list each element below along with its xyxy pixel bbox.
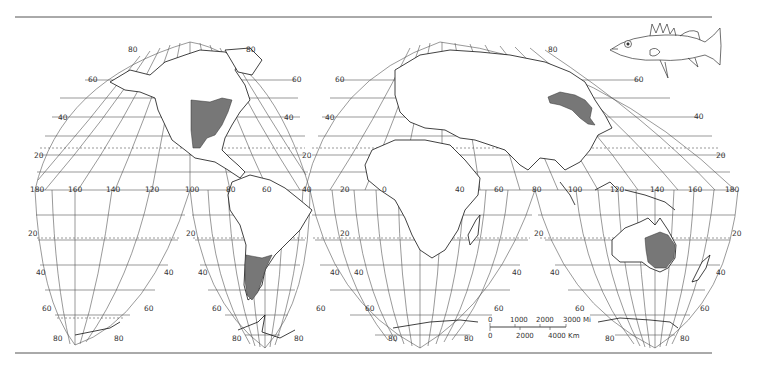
lat-label: 20 xyxy=(28,229,38,238)
scale-km-2000: 2000 xyxy=(516,332,534,340)
lat-label: 40 xyxy=(284,113,294,122)
lat-label: 40 xyxy=(58,113,68,122)
lat-label: 60 xyxy=(494,304,504,313)
lon-label: 180 xyxy=(30,185,45,194)
scale-bar: 0 1000 2000 3000 Mi 0 2000 4000 Km xyxy=(488,316,591,340)
lat-label: 20 xyxy=(186,229,196,238)
range-south-america xyxy=(245,255,272,300)
lon-label: 100 xyxy=(568,185,583,194)
lat-label: 40 xyxy=(198,268,208,277)
scale-km-4000: 4000 Km xyxy=(548,332,580,340)
lat-label: 80 xyxy=(246,45,256,54)
scale-mi-2000: 2000 xyxy=(536,316,554,324)
lon-label: 40 xyxy=(455,185,465,194)
lat-label: 80 xyxy=(464,334,474,343)
lat-label: 40 xyxy=(354,268,364,277)
lat-label: 20 xyxy=(340,229,350,238)
lon-label: 80 xyxy=(226,185,236,194)
lobe-australia xyxy=(535,190,738,348)
lat-label: 40 xyxy=(550,268,560,277)
longitude-labels: 180 160 140 120 100 80 60 40 20 0 40 60 … xyxy=(30,185,740,194)
lat-label: 60 xyxy=(575,304,585,313)
lon-label: 140 xyxy=(650,185,665,194)
lat-label: 60 xyxy=(634,75,644,84)
lat-label: 80 xyxy=(53,334,63,343)
world-map: 80 80 60 60 40 40 20 20 60 40 80 60 40 2… xyxy=(0,0,759,371)
lon-label: 180 xyxy=(725,185,740,194)
lat-label: 60 xyxy=(365,304,375,313)
lat-label: 60 xyxy=(335,75,345,84)
lat-label: 40 xyxy=(694,112,704,121)
lon-label: 60 xyxy=(494,185,504,194)
lat-label: 60 xyxy=(292,75,302,84)
lat-label: 20 xyxy=(302,151,312,160)
lat-label: 60 xyxy=(316,304,326,313)
lat-label: 40 xyxy=(716,268,726,277)
new-zealand xyxy=(692,255,710,282)
lat-label: 80 xyxy=(548,45,558,54)
lat-label: 40 xyxy=(36,268,46,277)
lon-label: 140 xyxy=(106,185,121,194)
lat-label: 20 xyxy=(534,229,544,238)
scale-mi-1000: 1000 xyxy=(510,316,528,324)
lat-label: 80 xyxy=(294,334,304,343)
madagascar xyxy=(468,215,480,245)
scale-mi-0: 0 xyxy=(488,316,492,324)
lat-label: 60 xyxy=(144,304,154,313)
lon-label: 20 xyxy=(340,185,350,194)
scale-mi-3000: 3000 Mi xyxy=(563,316,591,324)
lat-label: 80 xyxy=(388,334,398,343)
lat-label: 80 xyxy=(232,334,242,343)
lat-label: 20 xyxy=(34,151,44,160)
lat-label: 80 xyxy=(128,45,138,54)
lat-label: 20 xyxy=(716,151,726,160)
lon-label: 40 xyxy=(302,185,312,194)
lat-label: 20 xyxy=(732,229,742,238)
lat-label: 40 xyxy=(325,113,335,122)
lat-label: 60 xyxy=(212,304,222,313)
antarctica-australia xyxy=(598,318,678,328)
lat-label: 80 xyxy=(114,334,124,343)
north-america-coast xyxy=(110,50,250,178)
lat-label: 60 xyxy=(88,75,98,84)
lon-label: 160 xyxy=(68,185,83,194)
lon-label: 0 xyxy=(382,185,387,194)
lon-label: 60 xyxy=(262,185,272,194)
lat-label: 60 xyxy=(700,304,710,313)
fish-illustration xyxy=(610,23,721,78)
lat-label: 40 xyxy=(330,268,340,277)
lon-label: 100 xyxy=(185,185,200,194)
lon-label: 80 xyxy=(532,185,542,194)
lon-label: 120 xyxy=(145,185,160,194)
lat-label: 60 xyxy=(42,304,52,313)
lon-label: 160 xyxy=(688,185,703,194)
lon-label: 120 xyxy=(610,185,625,194)
lat-label: 40 xyxy=(164,268,174,277)
scale-km-0: 0 xyxy=(488,332,492,340)
lat-label: 80 xyxy=(680,334,690,343)
lat-label: 40 xyxy=(512,268,522,277)
lat-label: 80 xyxy=(605,334,615,343)
